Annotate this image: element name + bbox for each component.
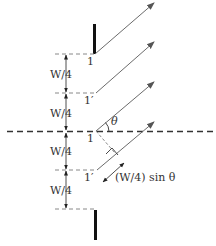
label-spacing-4: W/4 — [50, 184, 72, 197]
ray-2 — [96, 42, 154, 93]
diagram-canvas: 1 1′ 1 1′ W/4 W/4 W/4 W/4 θ (W/4) sin θ — [0, 0, 216, 246]
label-spacing-2: W/4 — [50, 107, 72, 120]
label-point-1prime-center: 1′ — [84, 171, 94, 184]
slit-diffraction-diagram: 1 1′ 1 1′ W/4 W/4 W/4 W/4 θ (W/4) sin θ — [0, 0, 216, 246]
label-point-1-center: 1 — [87, 132, 94, 145]
angle-arc — [106, 123, 110, 132]
ray-3 — [96, 82, 154, 131]
ray-4 — [97, 122, 154, 170]
perpendicular-dashed — [96, 131, 115, 153]
label-point-1-top: 1 — [87, 55, 94, 68]
ray-1 — [95, 3, 154, 54]
label-spacing-3: W/4 — [50, 145, 72, 158]
label-path-difference: (W/4) sin θ — [115, 171, 176, 184]
label-point-1prime-top: 1′ — [84, 94, 94, 107]
label-spacing-1: W/4 — [50, 68, 72, 81]
label-theta: θ — [111, 115, 118, 128]
